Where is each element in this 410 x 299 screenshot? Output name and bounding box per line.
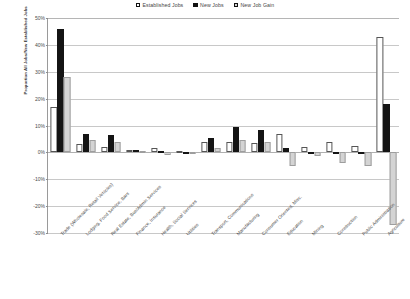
bar-new-jobs	[208, 138, 214, 153]
bar-new-job-gain	[215, 148, 221, 152]
x-axis-labels: Trade (Wholesale, Retail Vehicles)Lodgin…	[47, 233, 399, 299]
y-axis-tick-label: 40%	[35, 42, 45, 48]
bar-new-jobs	[358, 152, 364, 154]
bar-established-jobs	[352, 146, 358, 153]
bar-new-jobs	[57, 29, 63, 153]
bar-established-jobs	[377, 37, 383, 153]
bar-new-jobs	[233, 127, 239, 153]
y-axis-tick-label: 50%	[35, 15, 45, 21]
bar-group	[299, 18, 324, 233]
bar-new-job-gain	[265, 142, 271, 153]
bar-new-job-gain	[114, 142, 120, 153]
bar-new-jobs	[158, 151, 164, 153]
bars-layer	[48, 18, 399, 233]
bar-new-jobs	[83, 134, 89, 153]
y-axis-tick-label: -30%	[33, 230, 45, 236]
bar-new-jobs	[308, 152, 314, 154]
bar-established-jobs	[176, 151, 182, 153]
bar-group	[48, 18, 73, 233]
bar-established-jobs	[126, 150, 132, 153]
bar-new-job-gain	[315, 152, 321, 156]
bar-new-job-gain	[64, 77, 70, 152]
bar-established-jobs	[101, 147, 107, 152]
new-job-gain-swatch-icon	[234, 3, 239, 8]
y-axis-tick-label: 30%	[35, 69, 45, 75]
legend-item-new-job-gain: New Job Gain	[234, 2, 275, 8]
bar-new-jobs	[133, 150, 139, 153]
bar-new-jobs	[283, 148, 289, 152]
bar-established-jobs	[302, 147, 308, 152]
bar-established-jobs	[201, 142, 207, 153]
established-jobs-swatch-icon	[136, 3, 141, 8]
y-axis-title: Proportion All Jobs/New Established Jobs	[24, 0, 29, 130]
legend-item-new-jobs: New Jobs	[193, 2, 223, 8]
bar-new-job-gain	[139, 151, 145, 153]
bar-established-jobs	[251, 143, 257, 152]
bar-new-job-gain	[365, 152, 371, 165]
bar-new-jobs	[333, 152, 339, 154]
legend-item-established-jobs: Established Jobs	[136, 2, 184, 8]
bar-new-jobs	[183, 152, 189, 154]
chart-legend: Established Jobs New Jobs New Job Gain	[0, 2, 410, 8]
bar-new-job-gain	[390, 152, 396, 225]
y-axis-tick-label: -20%	[33, 203, 45, 209]
plot-area-wrapper: 50%40%30%20%10%0%-10%-20%-30%	[47, 18, 399, 233]
bar-established-jobs	[151, 148, 157, 152]
bar-new-jobs	[383, 104, 389, 152]
bar-new-jobs	[108, 135, 114, 152]
legend-label-new-job-gain: New Job Gain	[240, 2, 274, 8]
bar-new-jobs	[258, 130, 264, 153]
bar-new-job-gain	[340, 152, 346, 163]
bar-new-job-gain	[89, 140, 95, 152]
bar-new-job-gain	[240, 140, 246, 152]
bar-group	[148, 18, 173, 233]
bar-group	[249, 18, 274, 233]
bar-group	[198, 18, 223, 233]
bar-group	[324, 18, 349, 233]
bar-group	[349, 18, 374, 233]
bar-group	[374, 18, 399, 233]
bar-chart: Established Jobs New Jobs New Job Gain P…	[0, 0, 410, 299]
y-axis-tick-label: 10%	[35, 123, 45, 129]
y-axis-tick-label: -10%	[33, 176, 45, 182]
bar-established-jobs	[226, 142, 232, 153]
legend-label-new-jobs: New Jobs	[200, 2, 224, 8]
bar-established-jobs	[327, 142, 333, 153]
new-jobs-swatch-icon	[193, 3, 198, 8]
y-axis-tick-label: 20%	[35, 96, 45, 102]
bar-established-jobs	[277, 134, 283, 153]
plot-area: 50%40%30%20%10%0%-10%-20%-30%	[47, 18, 399, 233]
bar-established-jobs	[76, 144, 82, 152]
bar-established-jobs	[51, 107, 57, 153]
bar-new-job-gain	[164, 152, 170, 155]
legend-label-established-jobs: Established Jobs	[143, 2, 184, 8]
bar-new-job-gain	[189, 152, 195, 154]
bar-new-job-gain	[290, 152, 296, 165]
y-axis-tick-label: 0%	[38, 149, 45, 155]
